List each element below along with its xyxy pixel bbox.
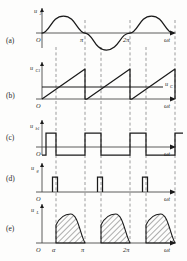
panel-e-conduction-segment-3 [146, 214, 175, 243]
panel-d-origin: O [36, 195, 41, 202]
panel-b-curve-label: u [165, 80, 168, 87]
panel-c-xlabel: ωt [164, 150, 170, 157]
panel-e-xlabel: ωt [164, 246, 170, 253]
panel-c-plot: u b1 O ωt [30, 120, 183, 157]
panel-b-ylabel: u [30, 64, 33, 71]
panel-e-y-arrow [40, 204, 44, 208]
alignment-dashed-lines [56, 20, 175, 243]
panel-d-pulse-2 [98, 177, 103, 192]
panel-a-tick-2pi: 2π [123, 36, 130, 43]
panel-a-ylabel-sub: 2 [40, 11, 42, 16]
panel-c-square-curve [42, 133, 183, 155]
panel-e-origin: O [36, 246, 41, 253]
panel-a-tick-pi: π [80, 36, 84, 43]
panel-b-ylabel-sub: C1 [36, 68, 41, 73]
panel-e-conduction-segment-2 [101, 214, 130, 243]
panel-e-conduction-segment-1 [56, 214, 85, 243]
panel-a-ylabel: u [34, 7, 37, 14]
panel-c-y-arrow [40, 120, 44, 124]
panel-b-plot: u C1 u C O ωt [30, 62, 176, 109]
waveform-canvas: u 2 O π 2π ωt u C1 u C O ωt [0, 0, 187, 261]
waveform-figure: (a) (b) (c) (d) (e) u 2 O π [0, 0, 187, 261]
panel-d-plot: u g O ωt [31, 163, 176, 202]
panel-e-ylabel: u [31, 206, 34, 213]
panel-e-tick-alpha: α [52, 246, 56, 253]
panel-e-tick-pi: π [81, 246, 85, 253]
panel-b-xlabel: ωt [164, 102, 170, 109]
panel-d-ylabel-sub: g [37, 168, 39, 173]
panel-d-pulse-1 [53, 177, 58, 192]
panel-b-curve-label-sub: C [170, 84, 173, 89]
panel-c-origin: O [36, 150, 41, 157]
panel-a-plot: u 2 O π 2π ωt [34, 7, 176, 50]
panel-a-origin: O [36, 36, 41, 43]
panel-d-pulse-3 [143, 177, 148, 192]
panel-c-ylabel-sub: b1 [36, 126, 40, 131]
panel-b-y-arrow [40, 62, 44, 66]
panel-b-origin: O [36, 102, 41, 109]
panel-d-y-arrow [40, 163, 44, 167]
panel-d-ylabel: u [31, 164, 34, 171]
panel-c-ylabel: u [30, 122, 33, 129]
panel-a-xlabel: ωt [164, 36, 170, 43]
panel-e-ylabel-sub: L [36, 210, 40, 215]
panel-e-plot: u L O α π 2π ωt [31, 204, 176, 253]
panel-b-sawtooth-curve [42, 69, 175, 99]
panel-e-tick-2pi: 2π [123, 246, 130, 253]
panel-d-xlabel: ωt [164, 195, 170, 202]
